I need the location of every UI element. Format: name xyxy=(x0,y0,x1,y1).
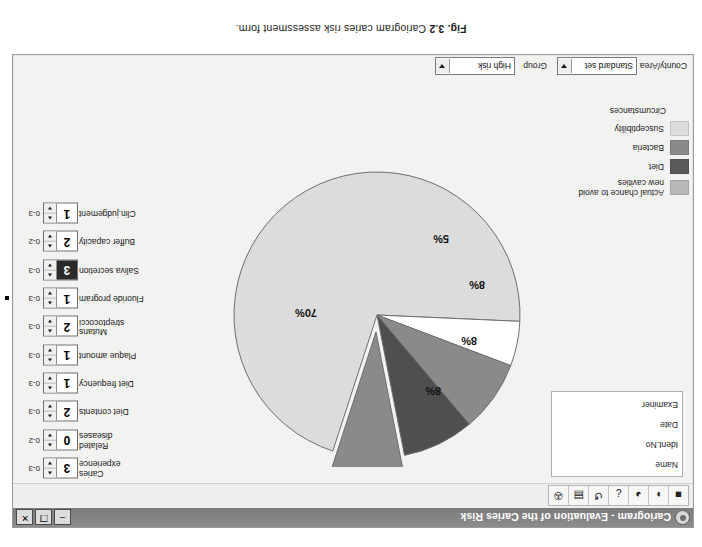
new-record-icon[interactable]: ■ xyxy=(668,486,688,505)
maximize-button[interactable]: ❐ xyxy=(35,510,52,526)
risk-factor-row: Plaque amount10-3 xyxy=(21,341,181,369)
window-titlebar[interactable]: Cariogram - Evaluation of the Caries Ris… xyxy=(13,508,693,527)
stepper-buttons xyxy=(44,232,57,251)
legend-label: Circumstances xyxy=(610,105,666,115)
patient-field-name[interactable]: Name xyxy=(655,460,678,470)
stepper-down-icon[interactable] xyxy=(44,289,56,298)
risk-factor-value: 1 xyxy=(57,373,77,392)
stepper-down-icon[interactable] xyxy=(44,458,56,467)
stepper-down-icon[interactable] xyxy=(44,430,56,439)
pie-label-diet: 8% xyxy=(469,279,485,291)
risk-factor-value: 3 xyxy=(57,260,77,279)
open-folder-icon[interactable]: ◗ xyxy=(648,486,668,505)
patient-field-examiner[interactable]: Examiner xyxy=(642,400,678,410)
refresh-icon[interactable]: ↺ xyxy=(588,486,608,505)
risk-factor-label: Mutansstreptococci xyxy=(79,317,171,336)
figure-number: Fig. 3.2 xyxy=(429,23,466,35)
stepper-down-icon[interactable] xyxy=(44,345,56,354)
stepper-buttons xyxy=(44,260,57,279)
risk-factor-row: Diet frequency10-3 xyxy=(21,369,181,397)
risk-factor-stepper[interactable]: 1 xyxy=(43,344,78,365)
legend-swatch-icon xyxy=(670,159,689,174)
risk-factor-label: Plaque amount xyxy=(79,350,171,360)
stepper-buttons xyxy=(44,373,57,392)
print-icon[interactable]: ✇ xyxy=(549,486,568,505)
risk-factor-range: 0-3 xyxy=(21,265,40,274)
risk-factor-range: 0-3 xyxy=(21,463,40,472)
stepper-up-icon[interactable] xyxy=(44,439,56,449)
stepper-up-icon[interactable] xyxy=(44,467,56,477)
risk-factor-row: Saliva secretion30-3 xyxy=(21,256,181,284)
bottom-selector-row: County/Area Standard set Group High risk xyxy=(13,55,693,77)
legend-swatch-icon xyxy=(670,121,689,136)
pie-label-circumstances: 5% xyxy=(433,233,449,245)
risk-factor-stepper[interactable]: 2 xyxy=(43,231,78,252)
county-area-select[interactable]: Standard set xyxy=(557,57,637,75)
cariogram-window: Cariogram - Evaluation of the Caries Ris… xyxy=(12,54,694,528)
risk-factor-label: Relateddiseases xyxy=(79,430,171,449)
risk-factor-range: 0-2 xyxy=(21,237,40,246)
legend-swatch-icon xyxy=(670,180,689,195)
stepper-buttons xyxy=(44,402,57,421)
county-area-label: County/Area xyxy=(640,61,687,71)
risk-factor-row: Clin.judgement10-3 xyxy=(21,199,181,227)
risk-factor-value: 1 xyxy=(57,289,77,308)
risk-factor-stepper[interactable]: 1 xyxy=(43,288,78,309)
stepper-down-icon[interactable] xyxy=(44,260,56,269)
risk-factor-label: Saliva secretion xyxy=(79,265,171,275)
stepper-up-icon[interactable] xyxy=(44,269,56,279)
county-area-value: Standard set xyxy=(572,61,636,71)
stepper-down-icon[interactable] xyxy=(44,402,56,411)
stepper-buttons xyxy=(44,430,57,449)
stepper-up-icon[interactable] xyxy=(44,326,56,336)
risk-factor-label: Buffer capacity xyxy=(79,237,171,247)
info-icon[interactable]: ¿ xyxy=(608,486,628,505)
risk-factor-value: 1 xyxy=(57,345,77,364)
risk-factor-stepper[interactable]: 2 xyxy=(43,401,78,422)
legend-item: Actual chance to avoidnew cavities xyxy=(537,178,689,197)
stepper-down-icon[interactable] xyxy=(44,232,56,241)
pie-svg xyxy=(215,157,545,467)
stepper-buttons xyxy=(44,317,57,336)
stepper-up-icon[interactable] xyxy=(44,382,56,392)
risk-factor-value: 2 xyxy=(57,232,77,251)
group-select[interactable]: High risk xyxy=(435,57,515,75)
chevron-down-icon[interactable] xyxy=(558,59,572,73)
risk-factor-stepper[interactable]: 3 xyxy=(43,259,78,280)
save-icon[interactable]: ▤ xyxy=(568,486,588,505)
close-button[interactable]: ✕ xyxy=(16,510,33,526)
stepper-up-icon[interactable] xyxy=(44,241,56,251)
legend-label: Susceptibility xyxy=(614,124,664,134)
chevron-down-icon[interactable] xyxy=(436,59,450,73)
risk-factor-stepper[interactable]: 1 xyxy=(43,203,78,224)
stepper-down-icon[interactable] xyxy=(44,204,56,213)
stepper-down-icon[interactable] xyxy=(44,373,56,382)
minimize-button[interactable]: – xyxy=(54,510,71,526)
stepper-up-icon[interactable] xyxy=(44,213,56,223)
risk-factor-stepper[interactable]: 2 xyxy=(43,316,78,337)
stepper-up-icon[interactable] xyxy=(44,354,56,364)
risk-factor-label: Clin.judgement xyxy=(79,208,171,218)
risk-factor-stepper[interactable]: 1 xyxy=(43,372,78,393)
pie-chart-icon[interactable]: ◕ xyxy=(628,486,648,505)
stepper-down-icon[interactable] xyxy=(44,317,56,326)
risk-factor-value: 2 xyxy=(57,317,77,336)
patient-field-date[interactable]: Date xyxy=(660,420,678,430)
risk-factor-label: Diet contents xyxy=(79,407,171,417)
stepper-up-icon[interactable] xyxy=(44,411,56,421)
risk-factor-stepper[interactable]: 0 xyxy=(43,429,78,450)
main-toolbar: ■◗◕¿↺▤✇ xyxy=(13,483,693,508)
figure-caption-text: Cariogram caries risk assessment form. xyxy=(235,23,426,35)
patient-field-identno[interactable]: Ident.No xyxy=(646,440,678,450)
risk-factor-row: Cariesexperience30-3 xyxy=(21,454,181,482)
risk-factor-row: Fluoride program10-3 xyxy=(21,284,181,312)
stepper-up-icon[interactable] xyxy=(44,298,56,308)
risk-factor-range: 0-3 xyxy=(21,350,40,359)
risk-factor-stepper[interactable]: 3 xyxy=(43,457,78,478)
legend-label: Diet xyxy=(649,162,664,172)
risk-factor-range: 0-3 xyxy=(21,294,40,303)
risk-factor-row: Relateddiseases00-2 xyxy=(21,425,181,453)
legend-item: Circumstances xyxy=(537,103,689,117)
cariogram-pie-chart: 70% 5% 8% 8% 8% xyxy=(215,157,545,467)
stepper-buttons xyxy=(44,204,57,223)
